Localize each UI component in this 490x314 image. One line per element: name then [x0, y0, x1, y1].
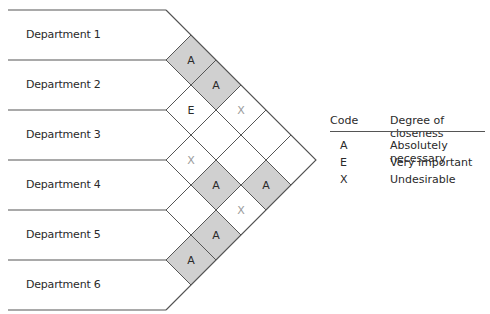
- legend-header-desc: Degree of closeness: [390, 114, 486, 140]
- cell-code: A: [262, 179, 270, 192]
- department-label-4: Department 4: [26, 178, 101, 192]
- legend: Code Degree of closeness A Absolutely ne…: [330, 112, 486, 131]
- cell-code: A: [187, 254, 195, 267]
- department-label-1: Department 1: [26, 28, 101, 42]
- legend-row-x: X Undesirable: [330, 173, 486, 190]
- legend-code: E: [340, 156, 347, 169]
- cell-code: X: [187, 154, 195, 167]
- cell-code: X: [237, 204, 245, 217]
- cell-code: X: [237, 104, 245, 117]
- legend-code: A: [340, 139, 348, 152]
- legend-header-code: Code: [330, 114, 358, 127]
- department-label-6: Department 6: [26, 278, 101, 292]
- cell-code: A: [187, 54, 195, 67]
- legend-code: X: [340, 173, 348, 186]
- department-label-3: Department 3: [26, 128, 101, 142]
- legend-header: Code Degree of closeness: [330, 112, 486, 131]
- legend-desc: Undesirable: [390, 173, 456, 186]
- legend-divider: [330, 131, 485, 132]
- legend-row-e: E Very important: [330, 156, 486, 173]
- cell-code: A: [212, 229, 220, 242]
- department-label-5: Department 5: [26, 228, 101, 242]
- legend-desc: Very important: [390, 156, 472, 169]
- department-label-2: Department 2: [26, 78, 101, 92]
- legend-row-a: A Absolutely necessary: [330, 139, 486, 156]
- cell-code: A: [212, 79, 220, 92]
- cell-code: E: [188, 104, 195, 117]
- cell-code: A: [212, 179, 220, 192]
